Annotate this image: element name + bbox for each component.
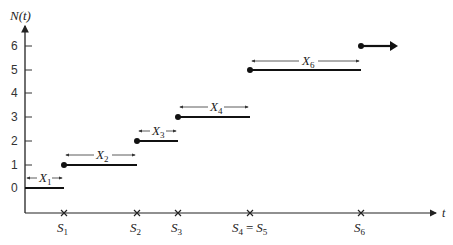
step-function xyxy=(25,46,392,188)
y-tick-2: 2 xyxy=(11,134,18,148)
counting-process-chart: N(t) 0 1 2 3 4 5 6 t S1 S2 S3 S4=S5 S6 xyxy=(0,0,453,245)
continuation-arrow xyxy=(390,41,398,51)
y-tick-1: 1 xyxy=(11,158,18,172)
y-tick-3: 3 xyxy=(11,110,18,124)
y-tick-5: 5 xyxy=(11,63,18,77)
s2-label: S2 xyxy=(130,220,141,237)
s4-s5-label: S4=S5 xyxy=(232,220,268,237)
x4-label: X4 xyxy=(209,99,223,116)
x2-label: X2 xyxy=(95,147,108,164)
s1-label: S1 xyxy=(57,220,68,237)
x1-label: X1 xyxy=(38,170,51,187)
y-axis-label: N(t) xyxy=(9,8,31,23)
y-ticks xyxy=(25,46,32,188)
x3-label: X3 xyxy=(151,123,165,140)
y-tick-6: 6 xyxy=(11,39,18,53)
s3-label: S3 xyxy=(171,220,183,237)
y-tick-4: 4 xyxy=(11,86,18,100)
interarrival-arrows xyxy=(27,61,359,178)
t-axis-label: t xyxy=(442,206,446,220)
s6-label: S6 xyxy=(354,220,366,237)
x6-label: X6 xyxy=(301,53,315,70)
y-tick-0: 0 xyxy=(11,181,18,195)
